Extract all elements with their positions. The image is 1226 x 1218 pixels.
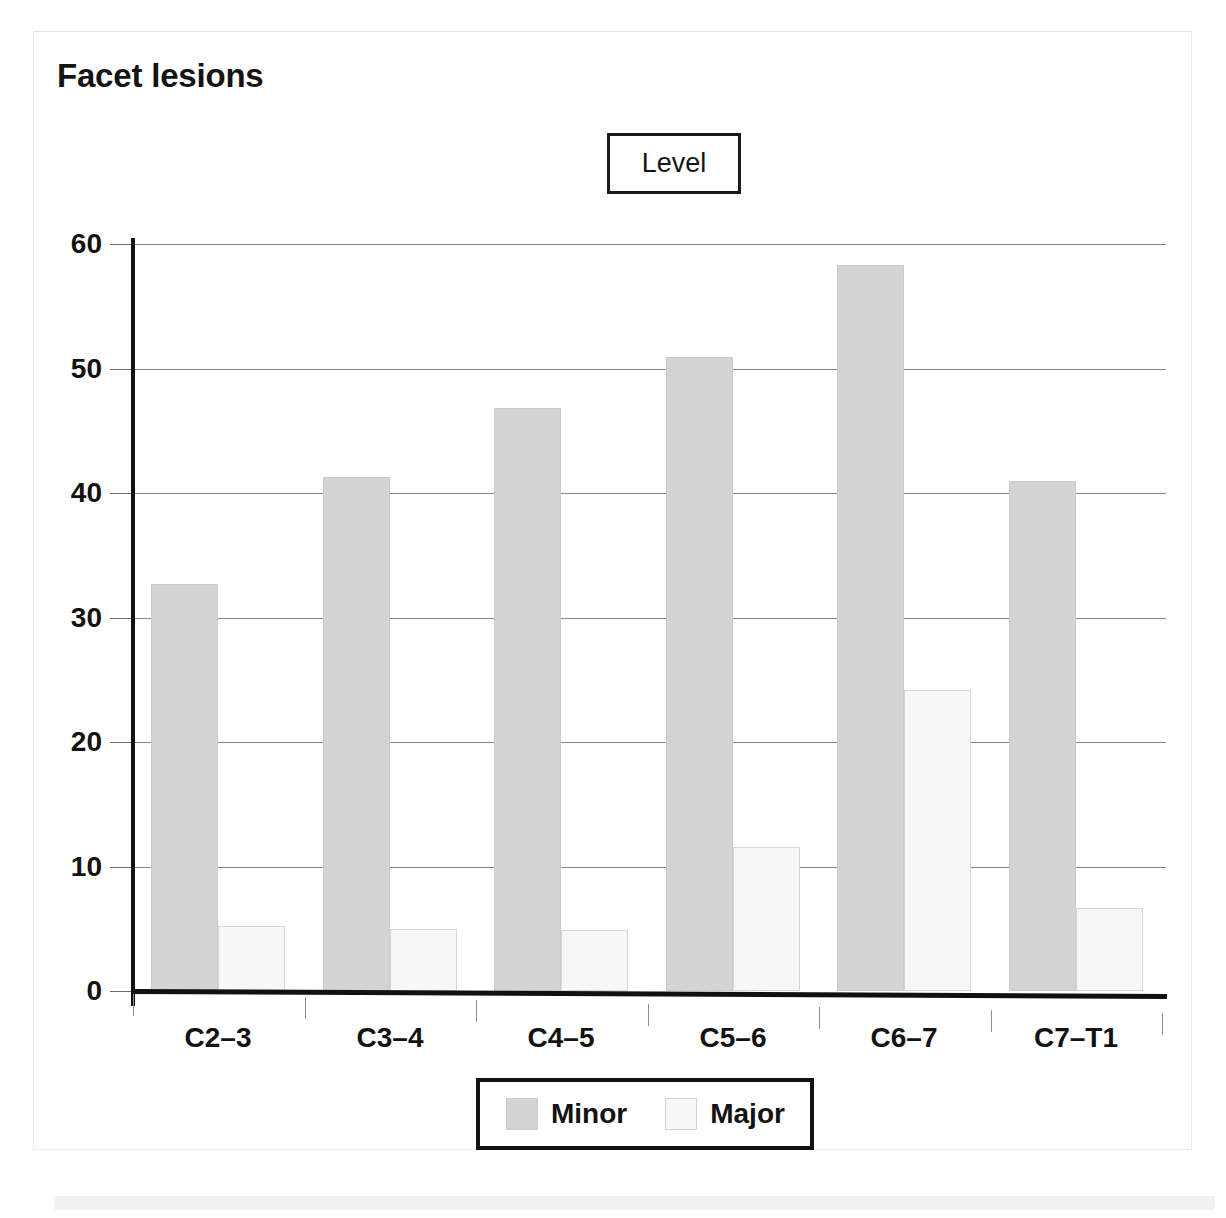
bar-minor-C34 <box>323 477 390 991</box>
y-axis-line <box>131 238 135 1006</box>
x-tick-mark <box>476 1000 477 1022</box>
bar-major-C34 <box>390 929 457 991</box>
x-tick-label: C3–4 <box>300 1022 480 1054</box>
bar-major-C23 <box>218 926 285 991</box>
y-tick-label: 60 <box>32 228 102 260</box>
bar-minor-C67 <box>837 265 904 991</box>
bar-major-C45 <box>561 930 628 991</box>
x-tick-mark <box>133 994 134 1016</box>
chart-legend: MinorMajor <box>476 1078 814 1150</box>
legend-label-minor: Minor <box>551 1098 627 1130</box>
legend-entry-minor: Minor <box>506 1098 627 1130</box>
x-tick-label: C7–T1 <box>986 1022 1166 1054</box>
bar-major-C7T1 <box>1076 908 1143 991</box>
x-tick-mark <box>1162 1013 1163 1035</box>
bar-minor-C56 <box>666 357 733 991</box>
x-tick-mark <box>305 997 306 1019</box>
bar-minor-C23 <box>151 584 218 991</box>
x-tick-label: C2–3 <box>128 1022 308 1054</box>
x-tick-label: C5–6 <box>643 1022 823 1054</box>
bar-major-C67 <box>904 690 971 991</box>
x-tick-label: C4–5 <box>471 1022 651 1054</box>
legend-swatch-minor <box>506 1098 538 1130</box>
bar-chart-plot: 0102030405060 C2–3C3–4C4–5C5–6C6–7C7–T1 <box>0 0 1226 1218</box>
y-tick-label: 30 <box>32 602 102 634</box>
y-tick-label: 20 <box>32 726 102 758</box>
gridline <box>133 244 1166 245</box>
legend-label-major: Major <box>710 1098 785 1130</box>
bar-minor-C45 <box>494 408 561 991</box>
legend-entry-major: Major <box>665 1098 785 1130</box>
gridline <box>133 369 1166 370</box>
bar-major-C56 <box>733 847 800 991</box>
y-tick-label: 0 <box>32 975 102 1007</box>
legend-swatch-major <box>665 1098 697 1130</box>
x-tick-label: C6–7 <box>814 1022 994 1054</box>
y-tick-label: 40 <box>32 477 102 509</box>
bar-minor-C7T1 <box>1009 481 1076 991</box>
y-tick-label: 10 <box>32 851 102 883</box>
y-tick-label: 50 <box>32 353 102 385</box>
